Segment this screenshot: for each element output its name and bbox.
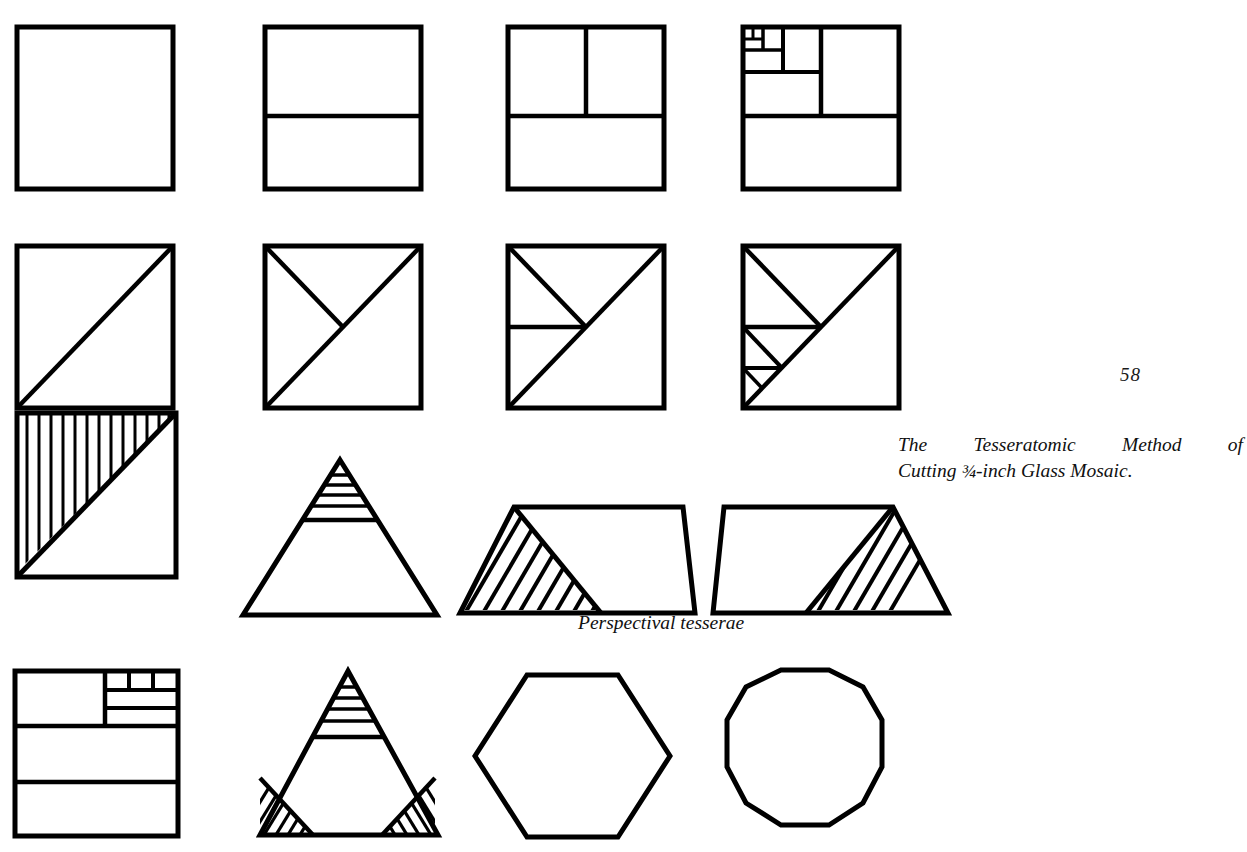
figure-square-banded-with-corner-cells [12, 668, 184, 840]
figure-whole-square [14, 24, 176, 192]
figure-square-quartered [505, 24, 667, 192]
figure-hexagon [470, 670, 675, 842]
mosaic-plate: 58 The Tesseratomic Method of Cutting ¾-… [0, 0, 1247, 852]
figure-square-recursive-subdivision [740, 24, 902, 192]
figure-square-diagonal-plus-halfdiagonal [262, 243, 424, 411]
figure-square-diagonal [14, 243, 176, 411]
page-number: 58 [1120, 364, 1141, 386]
caption-line-1: The Tesseratomic Method of [898, 432, 1243, 458]
figure-square-diagonal-two-cuts [505, 243, 667, 411]
figure-square-hatched-triangle [14, 410, 182, 610]
figure-square-halved [262, 24, 424, 192]
figure-triangle-apex-bands [238, 455, 443, 620]
figure-trapezoid-hatched-left [455, 500, 700, 620]
hatch-lines [687, 500, 955, 620]
caption-line-2: Cutting ¾-inch Glass Mosaic. [898, 458, 1243, 484]
figure-dodecagon [710, 665, 900, 845]
figure-trapezoid-hatched-right [707, 500, 955, 620]
plate-caption: The Tesseratomic Method of Cutting ¾-inc… [898, 432, 1243, 484]
figure-triangle-banded-hatched-corners [255, 665, 445, 843]
hatch-lines [425, 500, 657, 620]
figure-square-diagonal-recursive [740, 243, 902, 411]
perspectival-tesserae-label: Perspectival tesserae [578, 612, 744, 634]
